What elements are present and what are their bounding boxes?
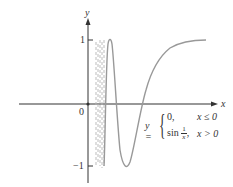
case-2-func: sin bbox=[167, 127, 179, 138]
plot-canvas bbox=[0, 0, 233, 187]
sin-inverse-x-curve bbox=[104, 40, 206, 167]
x-axis-label: x bbox=[221, 99, 225, 109]
y-tick-label-1: 1 bbox=[80, 35, 85, 45]
case-1-condition: x ≤ 0 bbox=[197, 111, 217, 122]
case-2-condition: x > 0 bbox=[197, 128, 218, 139]
origin-point bbox=[86, 102, 89, 105]
case-1-expr: 0, bbox=[167, 111, 175, 122]
y-axis-arrow-icon bbox=[86, 18, 91, 25]
origin-label: 0 bbox=[79, 107, 84, 117]
equation-lhs: y = bbox=[145, 120, 152, 142]
case-2-expr: sin 1x, bbox=[167, 126, 189, 141]
brace-icon: { bbox=[159, 109, 165, 139]
x-axis-arrow-icon bbox=[211, 102, 218, 107]
y-axis-label: y bbox=[85, 8, 89, 18]
y-tick-label-neg1: −1 bbox=[73, 161, 84, 171]
